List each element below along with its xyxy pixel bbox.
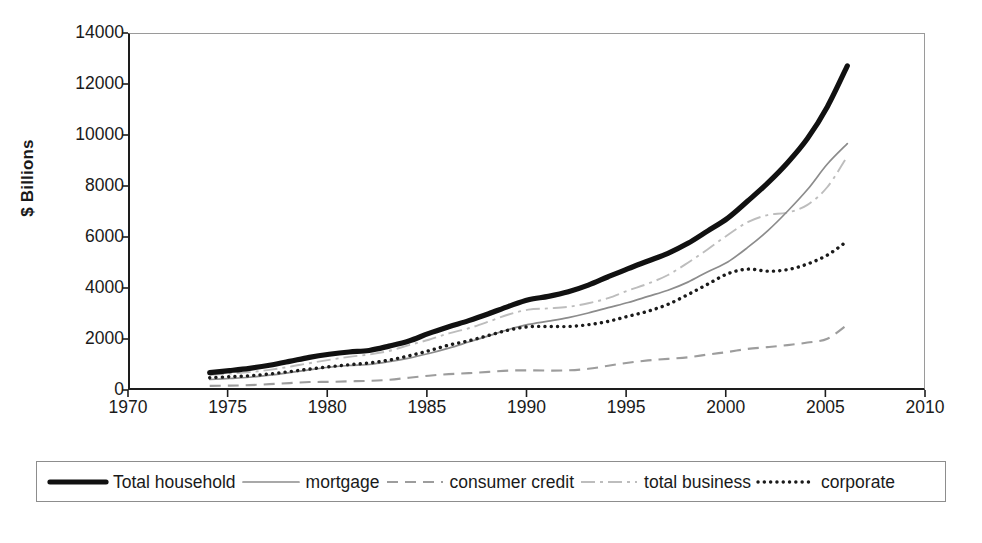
series-line	[210, 156, 848, 375]
x-tick-label: 2000	[686, 398, 766, 416]
legend-label: consumer credit	[446, 473, 579, 491]
x-tick-label: 1975	[188, 398, 268, 416]
y-tick-label: 6000	[46, 228, 124, 246]
legend-entry[interactable]: mortgage	[240, 473, 384, 491]
y-tick-label: 14000	[46, 24, 124, 42]
legend-key-dashed-gray	[384, 473, 446, 491]
plot-area	[128, 33, 925, 390]
series-line	[210, 144, 848, 380]
legend-key-solid-thin-gray	[240, 473, 302, 491]
series-line	[210, 325, 848, 386]
x-tick-label: 1980	[287, 398, 367, 416]
x-tick-label: 2010	[885, 398, 965, 416]
x-tick-label: 1990	[487, 398, 567, 416]
x-tick-label: 1995	[586, 398, 666, 416]
legend-key-dotted-black	[755, 473, 817, 491]
line-chart-figure: $ Billions 14000120001000080006000400020…	[0, 0, 982, 543]
chart-legend: Total householdmortgageconsumer creditto…	[36, 461, 946, 502]
legend-label: mortgage	[302, 473, 384, 491]
legend-label: total business	[640, 473, 755, 491]
legend-key-solid-thick-black	[47, 473, 109, 491]
x-tick-label: 1970	[88, 398, 168, 416]
legend-entry[interactable]: corporate	[755, 473, 899, 491]
y-tick-label: 10000	[46, 126, 124, 144]
legend-entry[interactable]: total business	[578, 473, 755, 491]
legend-key-dashdot-light	[578, 473, 640, 491]
series-line	[210, 66, 848, 373]
series-canvas	[130, 34, 927, 391]
y-tick-label: 2000	[46, 330, 124, 348]
x-tick-label: 1985	[387, 398, 467, 416]
x-tick-label: 2005	[785, 398, 865, 416]
y-tick-label: 8000	[46, 177, 124, 195]
y-tick-label: 12000	[46, 75, 124, 93]
legend-entry[interactable]: consumer credit	[384, 473, 579, 491]
y-tick-label: 4000	[46, 279, 124, 297]
legend-label: Total household	[109, 473, 240, 491]
legend-entry[interactable]: Total household	[47, 473, 240, 491]
y-tick-label: 0	[46, 381, 124, 399]
legend-label: corporate	[817, 473, 899, 491]
